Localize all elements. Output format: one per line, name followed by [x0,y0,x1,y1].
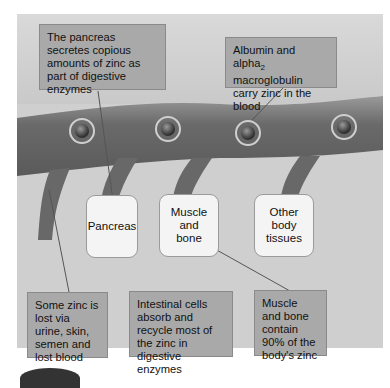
callout-albumin-carry: Albumin and alpha2 macroglobulin carry z… [225,37,337,88]
organ-other-tissues: Other body tissues [254,194,314,257]
vessel-branch-1 [38,168,70,240]
callout-pancreas-secretes: The pancreas secretes copious amounts of… [39,24,166,90]
callout-zinc-lost: Some zinc is lost via urine, skin, semen… [27,292,108,358]
organ-muscle-bone: Muscle and bone [159,194,219,257]
organ-pancreas: Pancreas [86,195,138,258]
callout-intestinal-cells: Intestinal cells absorb and recycle most… [129,291,233,357]
callout-muscle-bone-contain: Muscle and bone contain 90% of the body'… [254,290,327,356]
albumin-subscript: 2 [260,63,264,72]
page-edge-decoration [20,368,80,388]
leader-line-lost [49,190,69,292]
